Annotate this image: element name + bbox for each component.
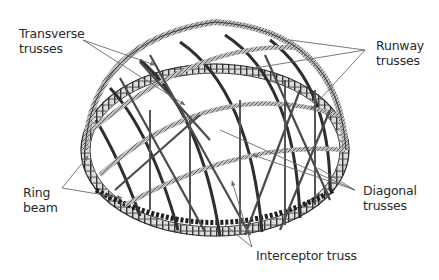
label-line: Diagonal xyxy=(363,183,417,198)
label-line: Transverse xyxy=(19,26,84,41)
label-line: trusses xyxy=(376,53,424,68)
label-line: Ring xyxy=(23,185,58,200)
label-line: beam xyxy=(23,200,58,215)
label-runway-trusses: Runway trusses xyxy=(376,38,424,68)
dome-diagram: Transverse trusses Runway trusses Ring b… xyxy=(0,0,439,280)
label-transverse-trusses: Transverse trusses xyxy=(19,26,84,56)
label-interceptor-truss: Interceptor truss xyxy=(256,248,357,263)
label-line: Runway xyxy=(376,38,424,53)
label-line: trusses xyxy=(19,41,84,56)
label-diagonal-trusses: Diagonal trusses xyxy=(363,183,417,213)
label-line: Interceptor truss xyxy=(256,248,357,263)
label-line: trusses xyxy=(363,198,417,213)
label-ring-beam: Ring beam xyxy=(23,185,58,215)
